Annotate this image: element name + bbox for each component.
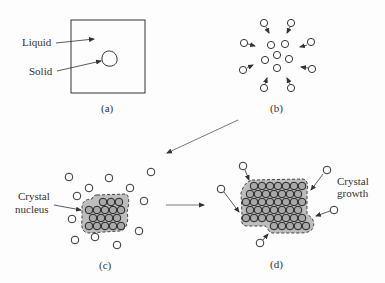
caption-d: (d) <box>270 258 283 271</box>
solid-label: Solid <box>29 65 53 77</box>
atom <box>217 185 225 193</box>
arrow-icon <box>300 45 307 47</box>
atom <box>239 162 247 170</box>
caption-b: (b) <box>270 102 283 115</box>
panel-a: Liquid Solid (a) <box>22 20 145 115</box>
atom <box>323 166 331 174</box>
transition-arrow-b-to-c-icon <box>167 120 238 153</box>
atom <box>287 19 294 26</box>
arrow-icon <box>248 44 255 46</box>
panel-d: Crystal growth (d) <box>217 162 369 271</box>
atom <box>287 84 294 91</box>
crystal-growth-label-line2: growth <box>337 187 369 199</box>
arrow-icon <box>287 78 290 84</box>
atom <box>85 184 93 192</box>
arrow-icon <box>316 211 330 216</box>
arrow-icon <box>287 27 290 33</box>
atom <box>239 66 246 73</box>
crystal-growth-label-line1: Crystal <box>337 175 369 187</box>
arrow-icon <box>265 78 267 84</box>
atom <box>68 215 76 223</box>
caption-a: (a) <box>101 102 114 115</box>
atom <box>91 233 99 241</box>
panel-c: Crystal nucleus (c) <box>15 168 155 272</box>
atom <box>240 39 247 46</box>
atom <box>65 173 73 181</box>
liquid-container-box <box>71 20 145 93</box>
atom <box>285 55 292 62</box>
arrow-icon <box>224 192 239 212</box>
atom <box>260 19 267 26</box>
atom <box>135 227 143 235</box>
atom <box>273 51 280 58</box>
arrow-icon <box>266 27 269 33</box>
atom <box>273 64 280 71</box>
arrow-icon <box>245 170 249 180</box>
caption-c: (c) <box>99 259 112 272</box>
arrow-icon <box>301 67 308 68</box>
liquid-arrow-icon <box>56 39 94 43</box>
panel-b <box>239 19 315 91</box>
solid-arrow-icon <box>57 61 101 71</box>
solidification-diagram: Liquid Solid (a) (b) <box>0 0 385 283</box>
arrow-icon <box>311 174 323 190</box>
atom <box>261 56 268 63</box>
atom <box>256 239 264 247</box>
atom <box>281 40 288 47</box>
atom <box>71 236 79 244</box>
atom <box>113 241 121 249</box>
atom <box>308 65 315 72</box>
solid-particle <box>102 51 117 66</box>
atom <box>330 206 338 214</box>
arrow-icon <box>247 65 253 68</box>
atom <box>260 84 267 91</box>
crystal-nucleus-arrow-icon <box>54 205 81 210</box>
liquid-label: Liquid <box>22 36 52 48</box>
atom <box>267 41 274 48</box>
atom <box>147 168 155 176</box>
atom <box>126 184 134 192</box>
arrow-icon <box>263 234 268 240</box>
atom <box>73 192 81 200</box>
crystal-nucleus-label-line2: nucleus <box>15 203 49 215</box>
atom <box>140 197 148 205</box>
atom <box>307 38 314 45</box>
atom <box>105 174 113 182</box>
crystal-nucleus-label-line1: Crystal <box>18 190 50 202</box>
